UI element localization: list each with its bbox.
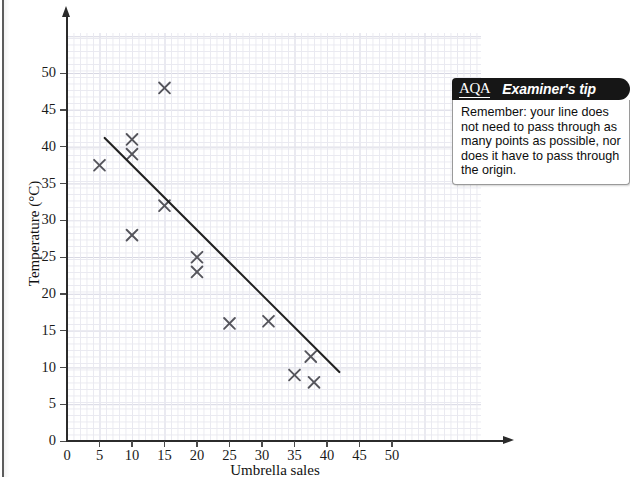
examiner-tip-header: AQA Examiner's tip [452,78,630,100]
examiner-tip-title: Examiner's tip [502,81,596,97]
data-point-marker [127,134,138,145]
data-point-marker [289,370,300,381]
data-point-marker [192,267,203,278]
data-point-marker [159,83,170,94]
examiner-tip-callout: AQA Examiner's tip Remember: your line d… [452,78,630,185]
aqa-logo: AQA [459,81,490,98]
scatter-chart: 0510152025303540455005101520253035404550… [0,0,630,477]
data-point-marker [127,230,138,241]
line-of-best-fit [105,138,340,372]
data-point-marker [305,351,316,362]
data-point-marker [127,149,138,160]
data-point-marker [263,316,274,327]
examiner-tip-body: Remember: your line does not need to pas… [452,100,630,185]
data-point-marker [309,377,320,388]
data-layer [0,0,630,477]
data-point-marker [94,160,105,171]
data-point-marker [192,252,203,263]
data-point-marker [224,318,235,329]
